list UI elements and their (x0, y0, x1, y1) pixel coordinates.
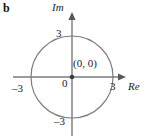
tick-label-re-negative-3: –3 (12, 83, 23, 94)
origin-axis-label: 0 (62, 78, 68, 89)
panel-letter-label: b (3, 2, 10, 14)
real-axis-label: Re (128, 81, 140, 92)
tick-label-re-positive-3: 3 (110, 81, 116, 92)
imaginary-axis-label: Im (52, 2, 64, 13)
origin-point-marker (70, 75, 75, 80)
real-axis-arrowhead (118, 73, 126, 80)
tick-label-im-positive-3: 3 (56, 28, 62, 39)
center-point-coordinate-label: (0, 0) (73, 58, 97, 69)
tick-label-im-negative-3: –3 (54, 116, 65, 127)
complex-plane-plot (0, 0, 148, 139)
imaginary-axis-arrowhead (68, 12, 75, 20)
complex-plane-figure: b Im Re 3 –3 3 –3 0 (0, 0) (0, 0, 148, 139)
